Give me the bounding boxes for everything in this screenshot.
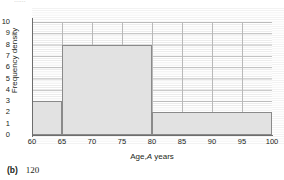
- figure-caption: (b)120: [7, 165, 39, 176]
- x-tick-label: 95: [230, 138, 254, 146]
- y-tick-label: 1: [0, 120, 10, 128]
- y-tick-label: 9: [0, 29, 10, 37]
- x-tick-label: 100: [260, 138, 284, 146]
- y-tick-label: 3: [0, 97, 10, 105]
- y-tick-label: 2: [0, 108, 10, 116]
- x-axis-title-variable: A: [147, 152, 152, 161]
- x-tick-label: 70: [80, 138, 104, 146]
- x-tick-label: 85: [170, 138, 194, 146]
- y-tick-label: 7: [0, 52, 10, 60]
- caption-value: 120: [26, 165, 40, 175]
- x-tick-label: 90: [200, 138, 224, 146]
- y-axis-title: Frequency density: [10, 9, 19, 113]
- x-axis-title-suffix: years: [154, 152, 174, 161]
- y-tick-label: 0: [0, 131, 10, 139]
- x-tick-label: 75: [110, 138, 134, 146]
- caption-label: (b): [7, 165, 18, 175]
- y-tick-label: 6: [0, 63, 10, 71]
- x-tick-label: 65: [50, 138, 74, 146]
- x-axis-title-prefix: Age,: [130, 152, 146, 161]
- y-tick-label: 10: [0, 18, 10, 26]
- x-axis-title: Age,A years: [32, 152, 272, 161]
- y-tick-label: 8: [0, 41, 10, 49]
- x-tick-label: 60: [20, 138, 44, 146]
- y-tick-label: 5: [0, 75, 10, 83]
- x-tick-label: 80: [140, 138, 164, 146]
- y-tick-label: 4: [0, 86, 10, 94]
